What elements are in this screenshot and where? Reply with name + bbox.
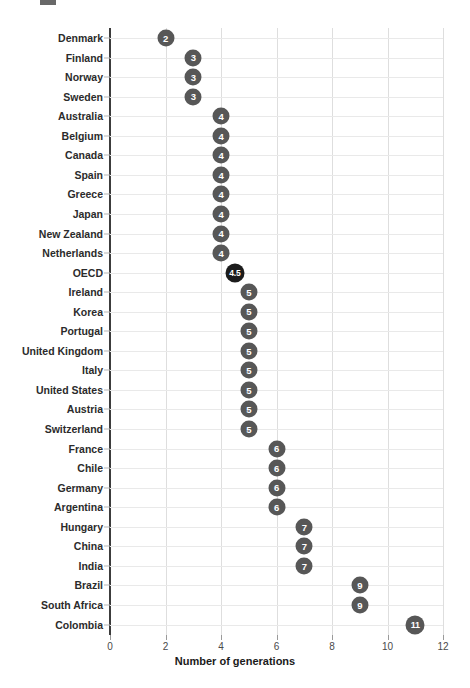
y-axis-tick xyxy=(104,389,110,390)
data-point-marker[interactable]: 5 xyxy=(240,421,257,438)
y-axis-tick xyxy=(104,233,110,234)
x-axis-tick xyxy=(110,635,111,640)
y-axis-tick xyxy=(104,57,110,58)
horizontal-gridline xyxy=(110,605,443,606)
y-axis-tick xyxy=(104,429,110,430)
data-point-marker[interactable]: 4 xyxy=(213,127,230,144)
horizontal-gridline xyxy=(110,585,443,586)
category-label: Switzerland xyxy=(0,423,103,435)
category-label: Norway xyxy=(0,71,103,83)
data-point-marker[interactable]: 7 xyxy=(296,518,313,535)
data-point-marker[interactable]: 4 xyxy=(213,147,230,164)
data-point-marker[interactable]: 4 xyxy=(213,108,230,125)
data-point-marker[interactable]: 6 xyxy=(268,460,285,477)
data-point-marker-highlight[interactable]: 4.5 xyxy=(225,263,244,282)
y-axis-tick xyxy=(104,585,110,586)
data-point-marker[interactable]: 5 xyxy=(240,342,257,359)
y-axis-tick xyxy=(104,194,110,195)
data-point-marker[interactable]: 4 xyxy=(213,205,230,222)
y-axis-tick xyxy=(104,350,110,351)
category-label: Australia xyxy=(0,110,103,122)
data-point-marker[interactable]: 6 xyxy=(268,499,285,516)
horizontal-gridline xyxy=(110,58,443,59)
data-point-marker[interactable]: 4 xyxy=(213,166,230,183)
vertical-gridline xyxy=(443,28,444,635)
horizontal-gridline xyxy=(110,527,443,528)
category-label: Greece xyxy=(0,188,103,200)
data-point-marker[interactable]: 5 xyxy=(240,323,257,340)
category-label: Canada xyxy=(0,149,103,161)
horizontal-gridline xyxy=(110,116,443,117)
data-point-marker[interactable]: 3 xyxy=(185,88,202,105)
data-point-marker[interactable]: 3 xyxy=(185,49,202,66)
generations-dot-chart: DenmarkFinlandNorwaySwedenAustraliaBelgi… xyxy=(0,0,470,688)
horizontal-gridline xyxy=(110,175,443,176)
category-label: Hungary xyxy=(0,521,103,533)
data-point-marker[interactable]: 5 xyxy=(240,284,257,301)
category-label: United States xyxy=(0,384,103,396)
category-label: Brazil xyxy=(0,579,103,591)
category-label: Portugal xyxy=(0,325,103,337)
data-point-marker[interactable]: 5 xyxy=(240,401,257,418)
x-axis-tick-label: 8 xyxy=(329,641,335,652)
data-point-marker[interactable]: 5 xyxy=(240,303,257,320)
horizontal-gridline xyxy=(110,312,443,313)
data-point-marker[interactable]: 9 xyxy=(351,596,368,613)
data-point-marker[interactable]: 6 xyxy=(268,440,285,457)
x-axis-tick-label: 0 xyxy=(107,641,113,652)
category-axis-labels: DenmarkFinlandNorwaySwedenAustraliaBelgi… xyxy=(0,0,103,688)
y-axis-tick xyxy=(104,174,110,175)
category-label: India xyxy=(0,560,103,572)
horizontal-gridline xyxy=(110,292,443,293)
data-point-marker[interactable]: 9 xyxy=(351,577,368,594)
data-point-marker[interactable]: 4 xyxy=(213,245,230,262)
category-label: Germany xyxy=(0,482,103,494)
category-label: Spain xyxy=(0,169,103,181)
horizontal-gridline xyxy=(110,194,443,195)
horizontal-gridline xyxy=(110,234,443,235)
data-point-marker[interactable]: 5 xyxy=(240,381,257,398)
y-axis-tick xyxy=(104,213,110,214)
y-axis-tick xyxy=(104,526,110,527)
y-axis-tick xyxy=(104,116,110,117)
category-label: Sweden xyxy=(0,91,103,103)
data-point-marker[interactable]: 7 xyxy=(296,538,313,555)
category-label: Belgium xyxy=(0,130,103,142)
y-axis-tick xyxy=(104,38,110,39)
data-point-marker[interactable]: 4 xyxy=(213,225,230,242)
category-label: Colombia xyxy=(0,619,103,631)
data-point-marker[interactable]: 7 xyxy=(296,557,313,574)
data-point-marker[interactable]: 2 xyxy=(157,30,174,47)
x-axis-title: Number of generations xyxy=(0,655,470,667)
data-point-marker[interactable]: 11 xyxy=(406,615,425,634)
data-point-marker[interactable]: 5 xyxy=(240,362,257,379)
data-point-marker[interactable]: 4 xyxy=(213,186,230,203)
y-axis-tick xyxy=(104,468,110,469)
y-axis-tick xyxy=(104,331,110,332)
x-axis-tick xyxy=(166,635,167,640)
y-axis-tick xyxy=(104,135,110,136)
category-label: OECD xyxy=(0,267,103,279)
category-label: South Africa xyxy=(0,599,103,611)
data-point-marker[interactable]: 6 xyxy=(268,479,285,496)
horizontal-gridline xyxy=(110,351,443,352)
y-axis-tick xyxy=(104,507,110,508)
horizontal-gridline xyxy=(110,546,443,547)
category-label: Austria xyxy=(0,403,103,415)
x-axis-tick-label: 10 xyxy=(382,641,393,652)
horizontal-gridline xyxy=(110,214,443,215)
horizontal-gridline xyxy=(110,429,443,430)
category-label: Chile xyxy=(0,462,103,474)
category-label: Denmark xyxy=(0,32,103,44)
category-label: Korea xyxy=(0,306,103,318)
y-axis-tick xyxy=(104,370,110,371)
y-axis-tick xyxy=(104,311,110,312)
x-axis-tick-label: 6 xyxy=(274,641,280,652)
y-axis-tick xyxy=(104,253,110,254)
x-axis-tick xyxy=(443,635,444,640)
horizontal-gridline xyxy=(110,566,443,567)
horizontal-gridline xyxy=(110,331,443,332)
data-point-marker[interactable]: 3 xyxy=(185,69,202,86)
x-axis-tick xyxy=(388,635,389,640)
category-label: Argentina xyxy=(0,501,103,513)
